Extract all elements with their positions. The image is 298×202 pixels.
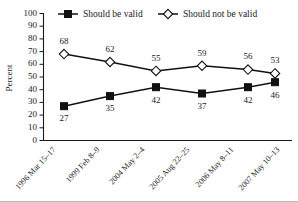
legend-label-should-not-be-valid: Should not be valid <box>183 9 257 19</box>
data-label-not-valid-3: 59 <box>198 48 208 58</box>
line-chart: Should be valid Should not be valid 100 <box>0 0 298 202</box>
y-axis-title: Percent <box>4 64 14 91</box>
series-should-not-be-valid: 68 62 55 59 56 53 <box>59 36 280 78</box>
data-label-valid-2: 42 <box>152 95 161 105</box>
x-tick-label-5: 2007 May 10–13 <box>237 145 282 192</box>
data-point-marker[interactable] <box>270 69 279 78</box>
chart-container: Should be valid Should not be valid 100 <box>0 0 298 202</box>
chart-legend: Should be valid Should not be valid <box>58 9 257 19</box>
y-tick-label-70: 70 <box>28 46 38 56</box>
x-tick-label-1: 1999 Feb 8–9 <box>64 145 101 184</box>
data-point-marker[interactable] <box>61 103 68 110</box>
legend-entry-should-not-be-valid[interactable]: Should not be valid <box>158 9 257 19</box>
y-tick-label-20: 20 <box>28 109 38 119</box>
x-tick-label-3: 2005 Aug 22–25 <box>148 145 192 191</box>
y-tick-label-10: 10 <box>28 122 38 132</box>
data-label-not-valid-4: 56 <box>244 51 254 61</box>
data-label-valid-4: 42 <box>244 95 253 105</box>
legend-entry-should-be-valid[interactable]: Should be valid <box>58 9 143 19</box>
data-point-marker[interactable] <box>59 49 68 58</box>
y-tick-label-80: 80 <box>28 33 38 43</box>
x-tick-label-0: 1996 Mar 15–17 <box>14 145 58 191</box>
data-point-marker[interactable] <box>105 57 114 66</box>
x-axis: 1996 Mar 15–17 1999 Feb 8–9 2004 May 2–4… <box>14 141 292 193</box>
data-label-valid-1: 35 <box>106 103 116 113</box>
data-label-not-valid-0: 68 <box>60 36 70 46</box>
data-label-valid-0: 27 <box>60 113 70 123</box>
data-point-marker[interactable] <box>197 61 206 70</box>
data-point-marker[interactable] <box>272 79 279 86</box>
y-tick-label-90: 90 <box>28 20 38 30</box>
y-axis: 100 90 80 70 60 50 40 30 20 10 0 Percent <box>4 8 44 145</box>
x-tick-label-2: 2004 May 2–4 <box>107 145 146 186</box>
y-tick-label-100: 100 <box>24 8 38 18</box>
data-point-marker[interactable] <box>107 93 114 100</box>
open-diamond-icon <box>163 9 172 18</box>
data-label-not-valid-2: 55 <box>152 53 162 63</box>
y-tick-label-0: 0 <box>33 135 38 145</box>
data-point-marker[interactable] <box>245 84 252 91</box>
y-tick-label-50: 50 <box>28 71 38 81</box>
legend-label-should-be-valid: Should be valid <box>83 9 143 19</box>
data-label-not-valid-5: 53 <box>271 55 281 65</box>
x-tick-label-4: 2006 May 8–11 <box>194 145 236 189</box>
data-point-marker[interactable] <box>199 90 206 97</box>
filled-square-icon <box>65 11 72 18</box>
data-label-valid-5: 46 <box>271 90 281 100</box>
y-tick-label-30: 30 <box>28 96 38 106</box>
data-point-marker[interactable] <box>153 84 160 91</box>
data-label-not-valid-1: 62 <box>106 44 115 54</box>
data-point-marker[interactable] <box>151 66 160 75</box>
y-tick-label-60: 60 <box>28 58 38 68</box>
data-point-marker[interactable] <box>243 65 252 74</box>
series-should-be-valid: 27 35 42 37 42 46 <box>60 79 281 123</box>
data-label-valid-3: 37 <box>198 101 208 111</box>
y-tick-label-40: 40 <box>28 84 38 94</box>
